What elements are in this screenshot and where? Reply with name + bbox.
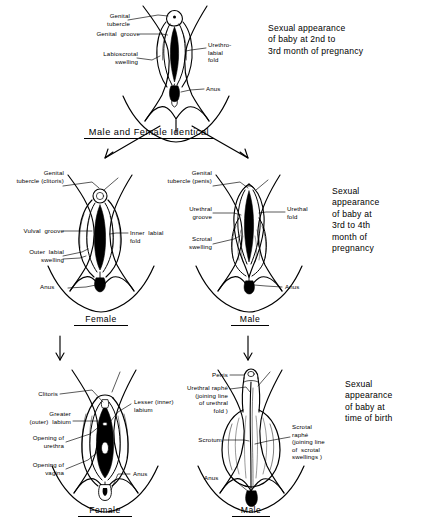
label-vulval-groove: Vulval groove bbox=[8, 227, 64, 235]
label-anus-female-midterm: Anus bbox=[40, 283, 70, 291]
label-penis: Penis bbox=[190, 371, 228, 379]
caption-birth-stage: Sexual appearance of baby at time of bir… bbox=[345, 379, 437, 425]
label-greater-outer-labium: Greater (outer) labium bbox=[5, 410, 71, 425]
label-labioscrotal-swelling: Labioscrotal swelling bbox=[72, 50, 138, 65]
label-anus-male-midterm: Anus bbox=[285, 283, 315, 291]
anatomical-line-art bbox=[0, 0, 438, 531]
label-urethral-groove: Urethral groove bbox=[160, 205, 212, 220]
label-scrotum: Scrotum bbox=[180, 436, 222, 444]
label-opening-of-urethra: Opening of urethra bbox=[12, 434, 64, 449]
label-anus-female-birth: Anus bbox=[133, 470, 163, 478]
label-genital-tubercle-indifferent: Genital tubercle bbox=[76, 12, 130, 27]
label-scrotal-swelling: Scrotal swelling bbox=[160, 235, 212, 250]
stage-name-male-birth: Male bbox=[232, 505, 270, 517]
label-opening-of-vagina: Opening of vagina bbox=[12, 461, 64, 476]
stage-name-identical: Male and Female Identical bbox=[84, 127, 214, 139]
label-genital-tubercle-female: Genital tubercle (clitoris) bbox=[6, 169, 64, 184]
stage-name-female-midterm: Female bbox=[74, 314, 128, 326]
caption-midterm-stage: Sexual appearance of baby at 3rd to 4th … bbox=[332, 186, 432, 254]
label-outer-labial-swelling: Outer labial swelling bbox=[6, 248, 64, 263]
label-anus-male-birth: Anus bbox=[204, 474, 234, 482]
diagram-female-birth bbox=[52, 370, 158, 512]
branch-arrows bbox=[105, 120, 248, 158]
label-scrotal-raphe: Scrotal raphé (joining line of scrotal s… bbox=[292, 423, 358, 461]
figure-canvas: Genital tubercle Genital groove Labioscr… bbox=[0, 0, 438, 531]
stage-name-male-midterm: Male bbox=[231, 314, 269, 326]
label-genital-tubercle-male: Genital tubercle (penis) bbox=[154, 169, 212, 184]
label-anus-indifferent: Anus bbox=[206, 85, 238, 93]
label-urethrolabial-fold: Urethro- labial fold bbox=[208, 41, 254, 64]
label-genital-groove-indifferent: Genital groove bbox=[72, 30, 140, 38]
label-clitoris: Clitoris bbox=[14, 390, 58, 398]
label-urethal-fold: Urethal fold bbox=[287, 205, 329, 220]
row-arrows bbox=[56, 336, 252, 360]
caption-indifferent-stage: Sexual appearance of baby at 2nd to 3rd … bbox=[268, 23, 433, 57]
label-urethral-raphe: Urethral raphé (joining line of urethral… bbox=[166, 384, 228, 414]
stage-name-female-birth: Female bbox=[78, 505, 132, 517]
